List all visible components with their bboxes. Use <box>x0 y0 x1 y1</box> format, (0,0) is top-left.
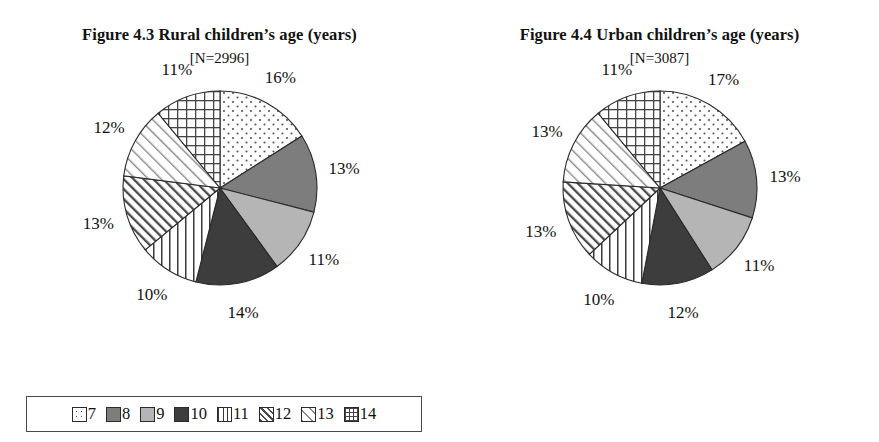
legend-label: 8 <box>122 406 130 423</box>
pie-chart-urban: 17%13%11%12%10%13%13%11% <box>440 73 879 343</box>
figure-subtitle-urban: [N=3087] <box>440 50 879 67</box>
pie-value-label-age-8: 13% <box>769 168 800 185</box>
legend-label: 12 <box>275 406 292 423</box>
legend-item-9: 9 <box>140 406 164 423</box>
legend-label: 10 <box>190 406 207 423</box>
figure-title-urban: Figure 4.4 Urban children’s age (years) <box>440 25 879 45</box>
legend-swatch-diagonal-dense-icon <box>259 407 274 422</box>
figure-subtitle-rural: [N=2996] <box>0 50 439 67</box>
pie-value-label-age-13: 12% <box>93 119 124 136</box>
pie-value-label-age-10: 12% <box>668 303 699 320</box>
pie-svg-rural <box>105 73 335 303</box>
pie-svg-urban <box>545 73 775 303</box>
legend-item-13: 13 <box>301 406 334 423</box>
legend-label: 14 <box>360 406 377 423</box>
legend-swatch-diagonal-sparse-icon <box>301 407 316 422</box>
legend-swatch-vertical-lines-icon <box>217 407 232 422</box>
legend-label: 13 <box>317 406 334 423</box>
pie-chart-rural: 16%13%11%14%10%13%12%11% <box>0 73 439 343</box>
figure-urban: Figure 4.4 Urban children’s age (years) … <box>440 0 879 442</box>
pie-value-label-age-12: 13% <box>83 215 114 232</box>
legend-item-10: 10 <box>174 406 207 423</box>
figure-title-rural: Figure 4.3 Rural children’s age (years) <box>0 25 439 45</box>
legend-label: 11 <box>233 406 249 423</box>
pie-value-label-age-10: 14% <box>228 303 259 320</box>
legend-item-14: 14 <box>344 406 377 423</box>
legend-rural: 7891011121314 <box>26 396 422 432</box>
legend-item-11: 11 <box>217 406 249 423</box>
pie-value-label-age-11: 10% <box>583 290 614 307</box>
figure-rural: Figure 4.3 Rural children’s age (years) … <box>0 0 439 442</box>
legend-label: 7 <box>88 406 96 423</box>
pie-value-label-age-9: 11% <box>744 257 775 274</box>
pie-value-label-age-9: 11% <box>309 250 340 267</box>
pie-value-label-age-7: 17% <box>708 71 739 88</box>
pie-value-label-age-14: 11% <box>602 61 633 78</box>
pie-value-label-age-8: 13% <box>328 160 359 177</box>
legend-item-8: 8 <box>106 406 130 423</box>
legend-swatch-dots-icon <box>72 407 87 422</box>
legend-swatch-near-black-icon <box>174 407 189 422</box>
legend-label: 9 <box>156 406 164 423</box>
pie-value-label-age-13: 13% <box>532 122 563 139</box>
pie-value-label-age-14: 11% <box>162 61 193 78</box>
pie-value-label-age-7: 16% <box>265 69 296 86</box>
legend-item-12: 12 <box>259 406 292 423</box>
pie-value-label-age-11: 10% <box>136 286 167 303</box>
legend-swatch-grid-icon <box>344 407 359 422</box>
pie-value-label-age-12: 13% <box>525 222 556 239</box>
legend-swatch-dark-gray-icon <box>106 407 121 422</box>
legend-swatch-light-gray-icon <box>140 407 155 422</box>
legend-item-7: 7 <box>72 406 96 423</box>
